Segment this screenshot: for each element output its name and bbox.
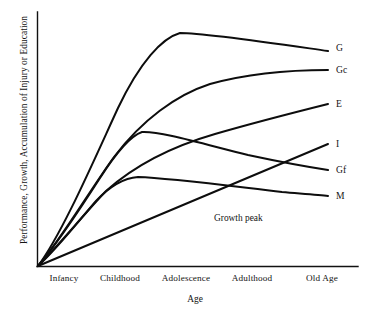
x-tick-label-adulthood: Adulthood xyxy=(232,273,273,283)
series-label-i: I xyxy=(336,138,339,149)
series-label-e: E xyxy=(336,98,342,109)
chart-container: G Gc E I Gf M Growth peak Infancy Childh… xyxy=(0,0,376,311)
series-line-gf xyxy=(38,132,328,266)
x-axis-title: Age xyxy=(187,294,203,304)
series-line-m xyxy=(38,177,328,266)
x-tick-label-infancy: Infancy xyxy=(49,273,78,283)
x-tick-label-adolescence: Adolescence xyxy=(162,273,211,283)
series-line-gc xyxy=(38,70,328,266)
x-tick-label-old-age: Old Age xyxy=(306,273,338,283)
series-label-m: M xyxy=(336,190,345,201)
line-chart-canvas: G Gc E I Gf M Growth peak Infancy Childh… xyxy=(0,0,376,311)
series-line-g xyxy=(38,33,328,266)
x-tick-label-childhood: Childhood xyxy=(100,273,140,283)
series-label-g: G xyxy=(336,42,343,53)
series-label-gc: Gc xyxy=(336,64,347,75)
series-label-gf: Gf xyxy=(336,164,347,175)
annotation-growth-peak: Growth peak xyxy=(214,213,263,223)
